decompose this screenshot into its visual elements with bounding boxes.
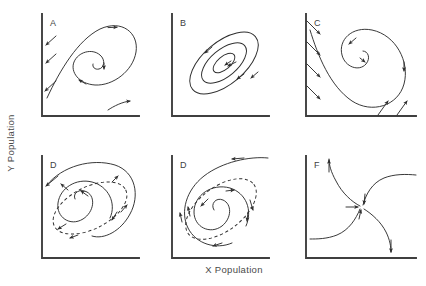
- panel-c-field-arrow-2: [307, 42, 320, 55]
- panel-a-arrow-inner: [79, 80, 86, 84]
- panel-d-label: D: [50, 160, 57, 170]
- panel-f-separatrix-upper-right: [363, 174, 416, 205]
- panel-f-label: F: [314, 160, 320, 170]
- panel-a-axes: [42, 14, 139, 116]
- panel-e-outer-arrow: [232, 158, 244, 159]
- panel-c-field-arrow-5: [378, 101, 388, 115]
- panel-f-axes: [306, 156, 416, 258]
- panel-d-cycle-arrow-3: [70, 235, 78, 238]
- phase-plane-figure: Y Population X Population A B: [0, 0, 426, 286]
- panel-b-orbit-outer: [179, 21, 269, 106]
- panel-c-arrow-1: [349, 38, 356, 44]
- panel-d-limit-cycle: [45, 171, 135, 245]
- panel-f-separatrix-lower-right: [364, 209, 391, 252]
- panel-c-arrow-3: [360, 58, 365, 62]
- panel-b-arrow-4: [251, 72, 258, 78]
- panel-e-spiral-arrow-1: [226, 190, 234, 191]
- panel-e-spiral-arrow-2: [201, 199, 208, 206]
- panel-a-label: A: [50, 18, 56, 28]
- panel-b-arrow-1: [205, 47, 212, 53]
- panel-b-orbit-middle: [195, 35, 254, 90]
- panel-e-label: D: [180, 160, 187, 170]
- panel-a-spiral: [47, 26, 136, 98]
- panel-a-field-arrow-1: [46, 36, 56, 45]
- panel-d-spiral-arrow-3: [58, 224, 66, 229]
- panel-b-arrow-3: [237, 74, 244, 79]
- panel-d-cycle-arrow-1: [112, 176, 118, 182]
- panel-c: C: [306, 14, 416, 116]
- panel-d-outer-arrow: [46, 176, 58, 186]
- y-axis-label: Y Population: [5, 114, 16, 171]
- panel-c-spiral: [310, 29, 405, 107]
- panel-e: D: [172, 156, 269, 258]
- panel-f-separatrix-upper-left: [329, 159, 360, 206]
- panel-b-axes: [172, 14, 269, 116]
- panel-d-axes: [42, 156, 139, 258]
- panel-c-field-arrow-4: [307, 86, 320, 99]
- panel-c-field-arrow-6: [397, 101, 407, 115]
- panel-f: F: [306, 156, 416, 258]
- panel-f-separatrix-lower-left: [310, 209, 360, 239]
- x-axis-label: X Population: [205, 264, 262, 275]
- panel-e-outer-arrow-2: [180, 213, 182, 222]
- panel-f-arrow-upper-right: [364, 194, 365, 204]
- panel-e-inner-spiral: [194, 187, 249, 230]
- panel-a-field-arrow-3: [45, 81, 56, 91]
- panel-a-field-arrow-2: [46, 54, 56, 63]
- panel-e-axes: [172, 156, 269, 258]
- panel-b-arrow-5: [225, 61, 231, 65]
- panel-b: B: [172, 14, 269, 116]
- panel-c-field-arrow-3: [307, 64, 320, 77]
- panel-a: A: [42, 14, 139, 116]
- panel-c-label: C: [314, 18, 321, 28]
- panel-d-outer-trajectory: [47, 162, 135, 236]
- panel-a-field-arrow-4: [108, 101, 130, 110]
- panel-d: D: [42, 156, 139, 258]
- panel-d-spiral-arrow-4: [112, 212, 117, 220]
- panel-b-label: B: [180, 18, 186, 28]
